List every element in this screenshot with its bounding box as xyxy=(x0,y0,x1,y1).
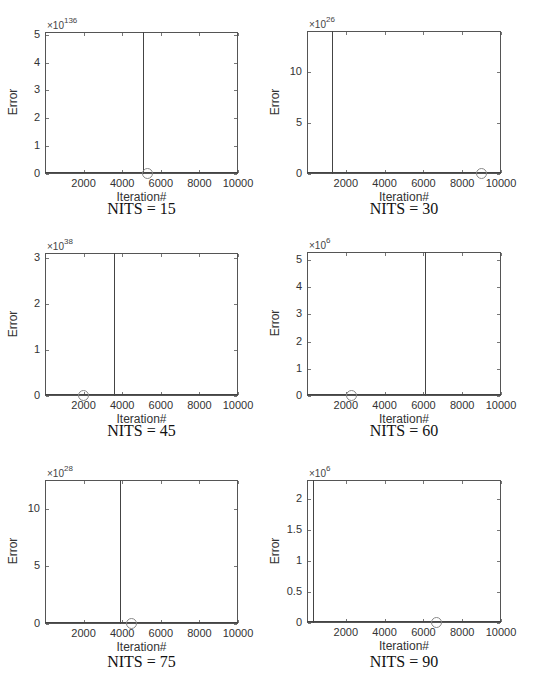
y-tick-mark xyxy=(46,509,49,510)
y-tick-mark xyxy=(308,260,311,261)
y-exponent-label: ×106 xyxy=(309,238,330,251)
x-tick-label: 6000 xyxy=(141,399,181,411)
error-spike-line xyxy=(114,253,115,396)
y-tick-label: 10 xyxy=(18,502,40,514)
x-tick-mark xyxy=(199,481,200,484)
x-tick-mark xyxy=(122,33,123,36)
exponent-power: 6 xyxy=(326,464,330,473)
x-tick-mark xyxy=(84,481,85,484)
exponent-base: ×10 xyxy=(47,241,64,252)
y-axis-label: Error xyxy=(268,82,282,122)
y-tick-label: 0.5 xyxy=(280,585,302,597)
y-tick-label: 3 xyxy=(280,307,302,319)
y-tick-mark xyxy=(497,287,500,288)
exponent-base: ×10 xyxy=(47,20,64,31)
error-baseline xyxy=(307,621,501,622)
y-tick-label: 1.5 xyxy=(280,523,302,535)
x-tick-mark xyxy=(423,32,424,35)
x-tick-mark xyxy=(161,481,162,484)
y-tick-mark xyxy=(308,342,311,343)
y-tick-mark xyxy=(497,369,500,370)
y-tick-label: 3 xyxy=(18,251,40,263)
x-tick-label: 10000 xyxy=(481,626,521,638)
exponent-base: ×10 xyxy=(309,468,326,479)
error-spike-line xyxy=(425,252,426,396)
y-tick-mark xyxy=(234,509,237,510)
x-tick-mark xyxy=(501,32,502,35)
y-exponent-label: ×1038 xyxy=(47,239,73,252)
y-tick-mark xyxy=(46,146,49,147)
x-tick-mark xyxy=(462,253,463,256)
y-tick-mark xyxy=(497,314,500,315)
y-tick-mark xyxy=(497,72,500,73)
y-tick-label: 2 xyxy=(18,111,40,123)
plot-axes xyxy=(307,31,501,174)
x-tick-mark xyxy=(462,32,463,35)
x-tick-label: 10000 xyxy=(481,399,521,411)
y-tick-mark xyxy=(234,396,237,397)
min-error-marker xyxy=(142,168,153,179)
x-tick-label: 10000 xyxy=(218,399,258,411)
x-tick-label: 6000 xyxy=(141,627,181,639)
error-spike-line xyxy=(120,480,121,624)
y-tick-label: 1 xyxy=(18,139,40,151)
exponent-base: ×10 xyxy=(309,19,326,30)
y-tick-mark xyxy=(234,350,237,351)
y-tick-mark xyxy=(234,624,237,625)
y-tick-mark xyxy=(497,123,500,124)
x-tick-mark xyxy=(385,32,386,35)
y-tick-mark xyxy=(234,566,237,567)
x-tick-mark xyxy=(161,33,162,36)
x-tick-label: 4000 xyxy=(102,177,142,189)
y-tick-mark xyxy=(308,314,311,315)
x-tick-mark xyxy=(501,253,502,256)
y-tick-label: 0 xyxy=(280,389,302,401)
y-tick-mark xyxy=(46,258,49,259)
y-tick-label: 5 xyxy=(280,116,302,128)
exponent-power: 26 xyxy=(326,15,335,24)
y-tick-label: 0 xyxy=(18,167,40,179)
y-tick-mark xyxy=(308,561,311,562)
subplot-caption: NITS = 30 xyxy=(344,200,464,218)
y-tick-mark xyxy=(497,342,500,343)
x-tick-label: 2000 xyxy=(326,399,366,411)
y-tick-mark xyxy=(234,174,237,175)
x-tick-mark xyxy=(423,253,424,256)
x-tick-mark xyxy=(501,392,502,395)
exponent-power: 136 xyxy=(64,16,77,25)
y-tick-label: 1 xyxy=(280,554,302,566)
y-tick-mark xyxy=(234,258,237,259)
x-tick-mark xyxy=(238,33,239,36)
exponent-power: 6 xyxy=(326,236,330,245)
y-tick-mark xyxy=(234,90,237,91)
y-tick-mark xyxy=(308,499,311,500)
x-tick-mark xyxy=(122,254,123,257)
x-tick-mark xyxy=(199,254,200,257)
plot-axes xyxy=(307,480,501,623)
x-tick-label: 8000 xyxy=(442,399,482,411)
x-tick-mark xyxy=(84,254,85,257)
subplot-caption: NITS = 60 xyxy=(344,422,464,440)
exponent-power: 28 xyxy=(64,464,73,473)
y-tick-label: 5 xyxy=(18,559,40,571)
x-tick-label: 8000 xyxy=(179,627,219,639)
y-tick-mark xyxy=(234,63,237,64)
x-tick-label: 4000 xyxy=(365,626,405,638)
y-tick-mark xyxy=(46,624,49,625)
x-tick-mark xyxy=(84,33,85,36)
y-tick-mark xyxy=(308,623,311,624)
y-exponent-label: ×10136 xyxy=(47,18,77,31)
x-tick-label: 2000 xyxy=(326,626,366,638)
y-tick-mark xyxy=(497,260,500,261)
y-tick-label: 4 xyxy=(280,280,302,292)
x-tick-mark xyxy=(501,619,502,622)
y-tick-label: 2 xyxy=(280,492,302,504)
y-tick-mark xyxy=(497,592,500,593)
x-tick-mark xyxy=(385,481,386,484)
error-spike-line xyxy=(143,32,144,174)
x-tick-mark xyxy=(346,32,347,35)
y-tick-mark xyxy=(308,174,311,175)
y-axis-label: Error xyxy=(268,531,282,571)
error-baseline xyxy=(45,622,238,623)
y-tick-mark xyxy=(497,174,500,175)
